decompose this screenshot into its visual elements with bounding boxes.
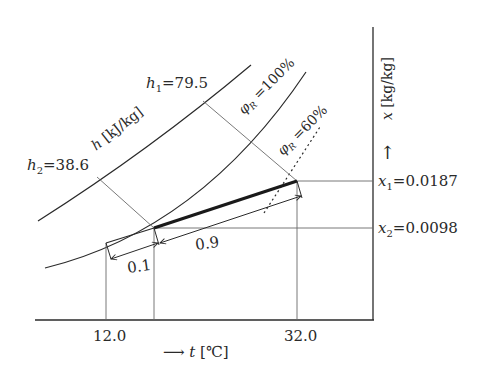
h2-enthalpy-line [97, 177, 154, 228]
enthalpy-scale-curve [38, 65, 251, 221]
rh60-curve-label: φR =60% [274, 102, 332, 160]
t-tick-12: 12.0 [93, 327, 126, 345]
ratio-large-label: 0.9 [194, 233, 220, 254]
x-axis-label: ⟶ t [℃] [163, 343, 229, 361]
y-axis-label: x [kg/kg] [379, 57, 395, 120]
enthalpy-axis-label: h [kJ/kg] [88, 103, 146, 153]
psychrometric-diagram: 0.1 0.9 h1=79.5 h2=38.6 h [kJ/kg] φR =10… [0, 0, 490, 379]
dim-tick-1 [297, 181, 302, 198]
ratio-0-1-dimension-arrow [111, 243, 158, 259]
saturation-curve-label: φR =100% [235, 54, 299, 118]
ratio-small-label: 0.1 [126, 256, 152, 277]
t-tick-32: 32.0 [284, 327, 317, 345]
y-axis-arrow-icon: ↑ [380, 142, 395, 163]
x1-tick-label: x1=0.0187 [378, 172, 458, 192]
mixing-line-thin [106, 228, 154, 243]
dim-tick-mix [154, 228, 159, 245]
x2-tick-label: x2=0.0098 [378, 219, 458, 239]
x-axis-arrow-icon: ⟶ [163, 343, 185, 361]
h1-label: h1=79.5 [146, 74, 208, 94]
h2-label: h2=38.6 [27, 156, 89, 176]
